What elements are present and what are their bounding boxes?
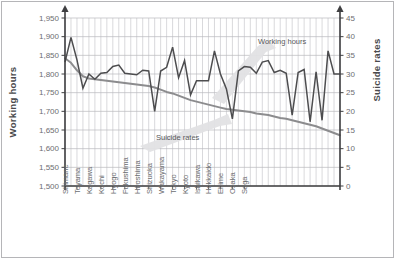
left-axis-tick-label: 1,500 [39,182,60,191]
left-axis-tick-label: 1,550 [39,163,60,172]
x-axis-category-label: Wakayama [157,156,166,194]
x-axis-category-label: Kyoto [181,175,190,194]
left-axis-title: Working hours [7,67,18,138]
x-axis-category-label: Kochi [97,175,106,194]
x-axis-category-label: Shimane [61,164,70,194]
left-axis-tick-label: 1,800 [39,70,60,79]
suicide-rates-annotation: Suicide rates [156,133,200,142]
x-axis-category-label: Toyama [73,167,82,194]
right-axis-tick-label: 10 [346,144,355,153]
dual-axis-line-chart: 1,5001,5501,6001,6501,7001,7501,8001,850… [0,0,395,259]
right-axis-tick-label: 25 [346,88,355,97]
right-axis-tick-label: 15 [346,126,355,135]
right-axis-tick-label: 5 [346,163,351,172]
working-hours-annotation: Working hours [258,37,306,46]
right-axis-tick-label: 30 [346,70,355,79]
right-axis: 051015202530354045Suicide rates [336,5,382,191]
x-axis-category-label: Shizuoka [145,162,154,194]
left-axis-arrow-icon [61,5,68,12]
right-axis-tick-label: 35 [346,51,355,60]
x-axis-category-label: Tokyo [169,174,178,194]
right-axis-title: Suicide rates [371,38,382,101]
right-axis-tick-label: 40 [346,32,355,41]
x-axis-category-label: Kagawa [85,166,94,194]
left-axis: 1,5001,5501,6001,6501,7001,7501,8001,850… [7,5,69,191]
x-axis-category-label: Saga [240,176,249,194]
x-axis-category-label: Hiroshima [133,159,142,194]
left-axis-tick-label: 1,700 [39,107,60,116]
x-axis-category-label: Ishikawa [193,164,202,194]
left-axis-tick-label: 1,900 [39,32,60,41]
right-axis-tick-label: 20 [346,107,355,116]
x-axis-category-label: Hokkaido [204,163,213,194]
left-axis-tick-label: 1,950 [39,14,60,23]
left-axis-tick-label: 1,750 [39,88,60,97]
right-axis-arrow-icon [336,5,343,12]
left-axis-tick-label: 1,850 [39,51,60,60]
x-axis-category-label: Ehime [216,173,225,194]
right-axis-tick-label: 45 [346,14,355,23]
chart-canvas: 1,5001,5501,6001,6501,7001,7501,8001,850… [0,0,395,259]
x-axis-category-label: Fukushima [121,156,130,194]
left-axis-tick-label: 1,650 [39,126,60,135]
x-axis-category-label: Osaka [228,171,237,194]
left-axis-tick-label: 1,600 [39,144,60,153]
x-axis-category-label: Hyogo [109,172,118,194]
right-axis-tick-label: 0 [346,182,351,191]
